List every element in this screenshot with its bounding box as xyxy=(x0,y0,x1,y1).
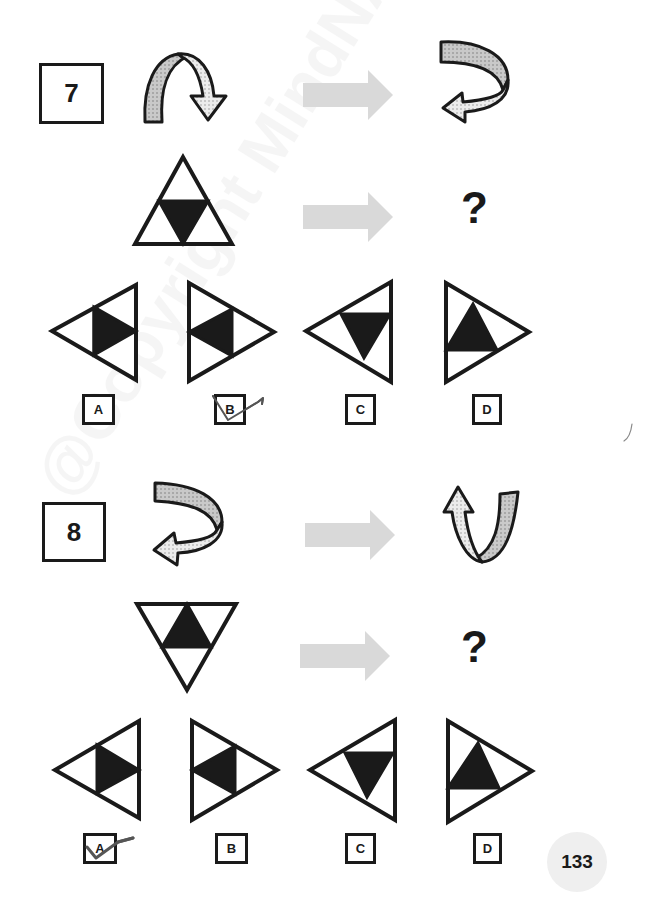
q8-problem-transform-arrow-icon xyxy=(300,631,390,681)
q7-problem-transform-arrow-icon xyxy=(303,192,393,242)
q8-problem-triangle xyxy=(137,604,236,690)
q7-option-c-figure[interactable] xyxy=(306,282,391,382)
q8-option-d-figure[interactable] xyxy=(448,721,532,822)
q8-answer-placeholder: ? xyxy=(461,625,488,669)
q8-option-a-figure[interactable] xyxy=(55,721,139,818)
q8-option-c-figure[interactable] xyxy=(310,720,395,820)
q8-target-u-arrow-icon xyxy=(444,487,518,562)
q7-option-b-button[interactable]: B xyxy=(214,394,246,425)
question-8-number: 8 xyxy=(42,502,106,562)
q8-option-a-button[interactable]: A xyxy=(83,833,117,864)
figures-canvas xyxy=(0,0,645,909)
q7-transform-arrow-icon xyxy=(303,70,393,120)
q7-option-d-button[interactable]: D xyxy=(472,394,502,425)
page-number: 133 xyxy=(547,832,607,892)
q7-source-curved-arrow-icon xyxy=(145,54,226,122)
q7-option-a-button[interactable]: A xyxy=(82,394,115,425)
q8-option-d-button[interactable]: D xyxy=(473,833,502,864)
worksheet-page: @Copyright MindNA xyxy=(0,0,645,909)
q7-target-curved-arrow-icon xyxy=(441,42,508,122)
q8-option-b-button[interactable]: B xyxy=(215,833,248,864)
margin-pencil-mark xyxy=(624,424,632,441)
q8-transform-arrow-icon xyxy=(305,510,395,560)
q7-problem-triangle xyxy=(135,157,232,244)
q7-answer-placeholder: ? xyxy=(461,186,488,230)
q7-option-b-figure[interactable] xyxy=(189,283,274,381)
q7-option-c-button[interactable]: C xyxy=(345,394,376,425)
q8-option-b-figure[interactable] xyxy=(192,721,277,820)
q7-option-a-figure[interactable] xyxy=(52,285,136,380)
question-7-number: 7 xyxy=(39,63,104,124)
q8-option-c-button[interactable]: C xyxy=(345,833,376,864)
q8-source-curved-arrow-icon xyxy=(154,483,222,565)
q7-option-d-figure[interactable] xyxy=(446,283,529,382)
